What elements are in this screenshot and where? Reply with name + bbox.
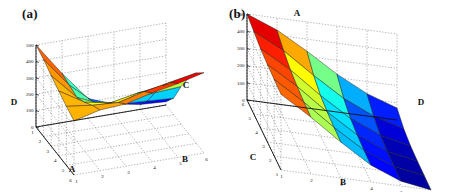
y-tick-label: 2 [101,174,104,179]
axis-title-x: C [250,152,257,162]
floor-gridline [277,104,311,174]
panel-b-canvas: 0100200300400500654321123456CBDA [225,0,451,192]
z-tick-label: 100 [237,81,245,86]
floor-gridline [44,115,174,137]
x-tick-label: 3 [262,144,265,149]
y-tick-label: 4 [370,186,373,191]
z-tick-label: 300 [237,46,245,51]
axis-title-annotation: C [183,80,190,90]
wall-gridline [247,83,281,153]
y-tick-label: 1 [280,174,283,179]
surface-mesh [247,14,431,190]
x-tick-label: 2 [39,139,42,144]
y-tick-label: 1 [75,179,78,184]
x-tick-label: 3 [46,149,49,154]
x-tick-label: 5 [249,116,252,121]
z-tick-label: 400 [237,29,245,34]
x-tick-label: 1 [276,172,279,177]
x-tick-label: 1 [31,130,34,135]
z-tick-label: 200 [26,92,34,97]
panel-a-label: (a) [22,6,38,22]
x-tick-label: 6 [69,178,72,183]
z-tick-label: 200 [237,63,245,68]
y-tick-label: 5 [400,190,403,192]
wall-gridline [36,23,166,45]
floor-gridline [88,118,126,166]
axis-title-y: B [182,154,188,164]
y-tick-label: 4 [153,165,156,170]
wall-gridline [36,39,166,61]
axes: 0100200300400500123456123456ABDC [11,43,209,184]
panel-a-canvas: 0100200300400500123456123456ABDC [0,0,225,192]
z-tick-label: 400 [26,59,34,64]
floor-gridline [166,105,204,153]
floor-gridline [140,109,178,157]
axis-title-annotation: A [294,8,301,18]
z-tick-label: 100 [26,108,34,113]
y-tick-label: 2 [310,178,313,183]
floor-gridline [114,114,152,162]
floor-gridline [66,143,196,165]
x-tick-label: 2 [269,158,272,163]
panel-b-label: (b) [229,6,246,22]
floor-gridline [62,123,100,171]
panel-b: 0100200300400500654321123456CBDA (b) [225,0,451,192]
panel-a: 0100200300400500123456123456ABDC (a) [0,0,225,192]
z-tick-label: 300 [26,76,34,81]
floor-gridline [59,134,189,156]
y-tick-label: 6 [205,157,208,162]
axis-title-z: D [418,97,425,107]
axis-title-y: B [340,177,346,187]
x-tick-label: 4 [255,130,258,135]
x-tick-label: 4 [54,158,57,163]
surface-plot-figure: 0100200300400500123456123456ABDC (a) 010… [0,0,451,192]
axis-title-x: A [69,164,76,174]
surface-mesh [36,45,204,121]
y-tick-label: 3 [127,170,130,175]
x-tick-label: 5 [62,168,65,173]
axis-title-z: D [11,97,18,107]
z-tick-label: 500 [26,43,34,48]
floor-gridline [51,124,181,146]
surface-facet [66,105,100,121]
